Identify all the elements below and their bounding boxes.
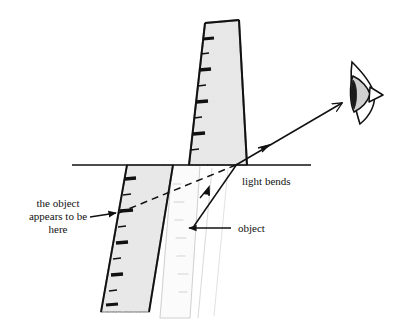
actual-ruler-ghost-secondary [198, 168, 228, 318]
apparent-position-line3: here [49, 223, 68, 235]
ruler-above-water [189, 20, 247, 165]
figure-canvas: the object appears to be here light bend… [0, 0, 406, 328]
object-label: object [238, 222, 265, 234]
observer-eye [350, 62, 383, 124]
apparent-position-line1: the object [36, 197, 79, 209]
apparent-position-pointer [90, 213, 116, 217]
light-bends-label: light bends [242, 175, 291, 187]
apparent-position-label: the object appears to be here [29, 197, 116, 235]
object-label-group: object [189, 222, 265, 234]
apparent-position-line2: appears to be [29, 210, 87, 222]
refracted-light-ray [236, 103, 342, 165]
refraction-figure: the object appears to be here light bend… [0, 0, 406, 328]
incident-light-ray [194, 164, 237, 226]
